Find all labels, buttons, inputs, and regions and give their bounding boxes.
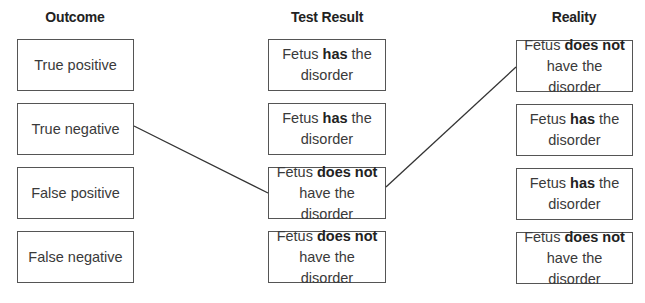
test-result-box[interactable]: Fetus does not have the disorder — [268, 167, 386, 219]
header-outcome: Outcome — [0, 9, 155, 25]
test-result-box[interactable]: Fetus has the disorder — [268, 103, 386, 155]
text-bold: has — [570, 175, 595, 191]
reality-box[interactable]: Fetus does not have the disorder — [516, 232, 633, 284]
reality-text: Fetus does not have the disorder — [517, 35, 632, 98]
reality-box[interactable]: Fetus has the disorder — [516, 168, 633, 220]
test-result-text: Fetus does not have the disorder — [269, 226, 385, 289]
text-pre: Fetus — [524, 229, 564, 245]
outcome-box[interactable]: True positive — [17, 39, 134, 91]
text-bold: has — [323, 110, 348, 126]
reality-box[interactable]: Fetus does not have the disorder — [516, 40, 633, 92]
reality-text: Fetus has the disorder — [517, 173, 632, 215]
text-post: have the disorder — [299, 185, 355, 222]
text-bold: does not — [317, 164, 377, 180]
text-pre: Fetus — [530, 111, 570, 127]
test-result-text: Fetus does not have the disorder — [269, 162, 385, 225]
text-pre: Fetus — [282, 110, 322, 126]
reality-box[interactable]: Fetus has the disorder — [516, 104, 633, 156]
text-pre: Fetus — [530, 175, 570, 191]
test-result-box[interactable]: Fetus has the disorder — [268, 39, 386, 91]
text-pre: Fetus — [277, 228, 317, 244]
text-pre: Fetus — [277, 164, 317, 180]
header-reality: Reality — [494, 9, 645, 25]
text-post: have the disorder — [299, 249, 355, 286]
connector-does-not-to-reality-does-not — [386, 67, 516, 187]
test-result-text: Fetus has the disorder — [269, 44, 385, 86]
text-pre: Fetus — [524, 37, 564, 53]
outcome-label: True negative — [27, 119, 123, 140]
text-post: have the disorder — [547, 58, 603, 95]
test-result-box[interactable]: Fetus does not have the disorder — [268, 231, 386, 283]
reality-text: Fetus has the disorder — [517, 109, 632, 151]
header-test-result: Test Result — [247, 9, 407, 25]
test-result-text: Fetus has the disorder — [269, 108, 385, 150]
text-bold: has — [323, 46, 348, 62]
reality-text: Fetus does not have the disorder — [517, 227, 632, 290]
text-bold: does not — [317, 228, 377, 244]
outcome-box[interactable]: False positive — [17, 167, 134, 219]
connector-true-negative-to-does-not — [134, 126, 268, 193]
text-bold: has — [570, 111, 595, 127]
outcome-label: False negative — [24, 247, 126, 268]
text-bold: does not — [564, 37, 624, 53]
text-post: have the disorder — [547, 250, 603, 287]
text-bold: does not — [564, 229, 624, 245]
text-pre: Fetus — [282, 46, 322, 62]
outcome-label: True positive — [30, 55, 120, 76]
outcome-label: False positive — [27, 183, 124, 204]
outcome-box[interactable]: False negative — [17, 231, 134, 283]
outcome-box[interactable]: True negative — [17, 103, 134, 155]
